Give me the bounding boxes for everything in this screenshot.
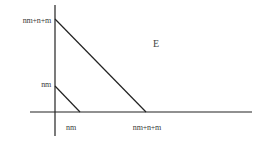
outer-line [55,19,146,112]
y-label-nm-n-m: nm+n+m [23,17,51,25]
x-label-nm-n-m: nm+n+m [133,124,161,132]
region-label-e: E [153,39,159,49]
x-label-nm: nm [66,124,76,132]
y-label-nm: nm [41,81,51,89]
inner-line [55,86,80,112]
